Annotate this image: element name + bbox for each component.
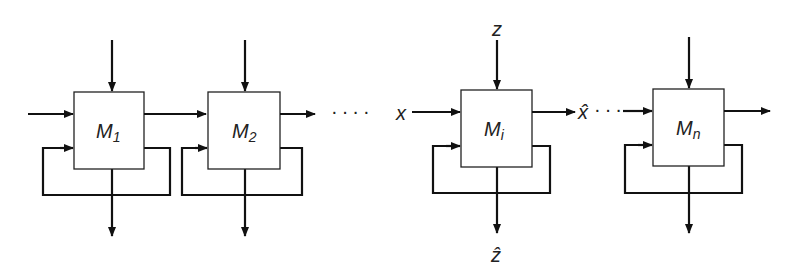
input-z-label: z	[491, 18, 502, 40]
input-x-label: x	[395, 102, 407, 124]
ellipsis-mi-mn: ···	[594, 98, 626, 120]
output-z-hat-label: ẑ	[490, 244, 501, 266]
module-mi: z x Mi ẑ	[395, 18, 550, 266]
output-x-hat-label: x̂	[577, 101, 589, 123]
module-m1: M1	[28, 40, 170, 236]
ellipsis-m2-mi: ····	[331, 100, 374, 122]
module-chain-diagram: M1 M2 ···· z x Mi ẑ x̂ ··· Mn	[0, 0, 796, 277]
module-mn: Mn	[623, 37, 770, 233]
module-m2: M2	[182, 40, 302, 236]
